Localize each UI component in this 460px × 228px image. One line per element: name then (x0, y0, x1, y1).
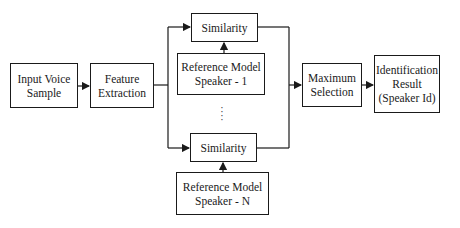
feature-extraction-label: Feature Extraction (98, 72, 146, 100)
identification-result-block: Identification Result (Speaker Id) (374, 55, 440, 113)
reference-model-speaker-n-label: Reference Model Speaker - N (183, 180, 263, 208)
feature-extraction-block: Feature Extraction (90, 63, 154, 108)
input-voice-sample-label: Input Voice Sample (18, 72, 71, 100)
input-voice-sample-block: Input Voice Sample (10, 63, 78, 108)
maximum-selection-block: Maximum Selection (302, 63, 362, 107)
maximum-selection-label: Maximum Selection (308, 71, 356, 99)
similarity-n-block: Similarity (190, 133, 257, 162)
reference-model-speaker-n-block: Reference Model Speaker - N (176, 172, 269, 215)
similarity-n-label: Similarity (201, 141, 247, 155)
similarity-1-block: Similarity (191, 13, 258, 42)
reference-model-speaker-1-block: Reference Model Speaker - 1 (177, 53, 265, 95)
similarity-1-label: Similarity (202, 21, 248, 35)
ellipsis-indicator: ···· (219, 106, 225, 122)
identification-result-label: Identification Result (Speaker Id) (376, 63, 438, 105)
reference-model-speaker-1-label: Reference Model Speaker - 1 (181, 60, 261, 88)
